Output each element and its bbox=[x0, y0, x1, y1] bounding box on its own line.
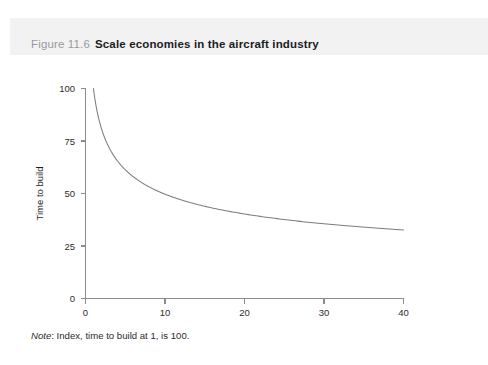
note-text: : Index, time to build at 1, is 100. bbox=[51, 330, 189, 341]
note-label: Note bbox=[31, 330, 51, 341]
x-axis-ticks bbox=[86, 299, 404, 304]
figure-note: Note: Index, time to build at 1, is 100. bbox=[31, 330, 189, 341]
y-axis-tick-labels: 100 75 50 25 0 bbox=[59, 83, 75, 304]
x-tick-label-40: 40 bbox=[398, 307, 409, 318]
figure-caption: Figure 11.6Scale economies in the aircra… bbox=[31, 38, 319, 50]
scale-economies-line-chart: 100 75 50 25 0 0 10 20 30 40 bbox=[10, 55, 488, 325]
figure-number: Figure 11.6 bbox=[31, 38, 90, 50]
y-axis-ticks bbox=[81, 89, 86, 299]
x-tick-label-10: 10 bbox=[160, 307, 171, 318]
x-tick-label-0: 0 bbox=[83, 307, 88, 318]
learning-curve-line bbox=[93, 89, 403, 231]
figure-title: Scale economies in the aircraft industry bbox=[95, 38, 319, 50]
y-tick-label-25: 25 bbox=[64, 241, 75, 252]
figure-caption-band: Figure 11.6Scale economies in the aircra… bbox=[10, 18, 488, 55]
y-tick-label-0: 0 bbox=[70, 293, 75, 304]
x-axis-tick-labels: 0 10 20 30 40 bbox=[83, 307, 409, 318]
x-axis-title: Number of aircraft bbox=[206, 324, 282, 325]
chart-plot-area: 100 75 50 25 0 0 10 20 30 40 bbox=[10, 55, 488, 325]
y-tick-label-75: 75 bbox=[64, 136, 75, 147]
y-axis-title: Time to build bbox=[34, 166, 45, 220]
y-tick-label-50: 50 bbox=[64, 188, 75, 199]
figure-card: Figure 11.6Scale economies in the aircra… bbox=[10, 8, 488, 352]
y-tick-label-100: 100 bbox=[59, 83, 75, 94]
x-tick-label-20: 20 bbox=[239, 307, 250, 318]
x-tick-label-30: 30 bbox=[319, 307, 330, 318]
